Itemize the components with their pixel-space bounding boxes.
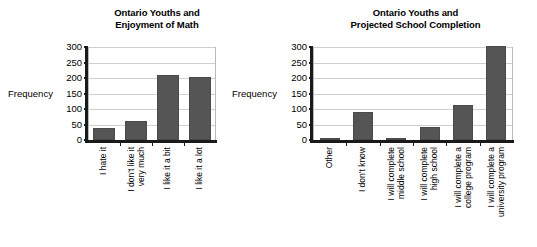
x-axis-label-line: I like it a lot: [195, 147, 205, 190]
x-axis-label-line: very much: [136, 147, 146, 192]
y-axis-tick-label: 200: [273, 73, 307, 83]
y-axis-tick-label: 0: [48, 135, 82, 145]
y-axis-tick-label: 250: [48, 58, 82, 68]
y-axis-tick-mark: [309, 139, 313, 141]
bar: [189, 77, 210, 140]
y-axis-tick-mark: [309, 124, 313, 126]
bars-container: [313, 47, 513, 140]
y-axis-tick-label: 300: [273, 42, 307, 52]
chart-enjoyment-of-math: Ontario Youths and Enjoyment of Math 050…: [0, 0, 268, 247]
x-axis-category-label: I don't like itvery much: [127, 147, 146, 192]
y-axis-tick-label: 150: [48, 89, 82, 99]
bar: [453, 105, 473, 140]
x-axis-category-label: I like it a lot: [195, 147, 205, 190]
x-axis-tick-mark: [346, 141, 347, 146]
x-axis-label-line: college program: [463, 147, 473, 208]
x-axis-tick-mark: [120, 141, 121, 146]
x-axis-label-line: I don't know: [358, 147, 368, 192]
bar: [320, 138, 340, 140]
bar: [157, 75, 178, 140]
bar: [125, 121, 146, 140]
x-axis-tick-mark: [184, 141, 185, 146]
y-axis-tick-label: 100: [48, 104, 82, 114]
y-axis-tick-label: 100: [273, 104, 307, 114]
x-axis-label-line: Other: [325, 147, 335, 168]
chart-title-line-2: Projected School Completion: [304, 19, 527, 31]
chart-title: Ontario Youths and Projected School Comp…: [304, 7, 527, 31]
x-axis-label-line: I will complete: [387, 147, 397, 200]
chart-projected-school-completion: Ontario Youths and Projected School Comp…: [268, 0, 537, 247]
x-axis-tick-mark: [152, 141, 153, 146]
chart-title: Ontario Youths and Enjoyment of Math: [54, 7, 260, 31]
chart-title-line-1: Ontario Youths and: [304, 7, 527, 19]
y-axis-tick-mark: [309, 108, 313, 110]
x-axis-label-line: I hate it: [99, 147, 109, 175]
x-axis-label-line: I don't like it: [127, 147, 137, 192]
y-axis-tick-label: 250: [273, 58, 307, 68]
bar: [386, 138, 406, 140]
y-axis-tick-label: 200: [48, 73, 82, 83]
y-axis-label: Frequency: [232, 88, 277, 99]
x-axis-category-label: I hate it: [99, 147, 109, 175]
y-axis-tick-mark: [84, 77, 88, 79]
bar: [420, 127, 440, 140]
y-axis-tick-mark: [84, 93, 88, 95]
y-axis-tick-label: 50: [273, 120, 307, 130]
x-axis-tick-mark: [413, 141, 414, 146]
x-axis-label-line: high school: [430, 147, 440, 200]
y-axis-label: Frequency: [8, 88, 53, 99]
x-axis-label-line: university program: [496, 147, 506, 217]
bar: [353, 112, 373, 140]
x-axis-category-label: I will completemiddle school: [387, 147, 406, 200]
x-axis-category-label: I will complete acollege program: [454, 147, 473, 208]
y-axis-tick-mark: [84, 108, 88, 110]
y-axis-tick-mark: [309, 62, 313, 64]
y-axis-tick-mark: [309, 77, 313, 79]
y-axis-tick-label: 300: [48, 42, 82, 52]
y-axis-tick-mark: [84, 62, 88, 64]
bar: [93, 128, 114, 140]
y-axis-tick-label: 150: [273, 89, 307, 99]
chart-page: Ontario Youths and Enjoyment of Math 050…: [0, 0, 537, 247]
x-axis-tick-mark: [380, 141, 381, 146]
x-axis-label-line: I will complete a: [454, 147, 464, 208]
x-axis-category-label: I will completehigh school: [420, 147, 439, 200]
x-axis-label-line: I will complete a: [487, 147, 497, 217]
bars-container: [88, 47, 216, 140]
bar: [486, 46, 506, 140]
x-axis-category-label: I will complete auniversity program: [487, 147, 506, 217]
y-axis-tick-label: 50: [48, 120, 82, 130]
chart-title-line-1: Ontario Youths and: [54, 7, 260, 19]
x-axis-label-line: I like it a bit: [163, 147, 173, 190]
x-axis-tick-mark: [480, 141, 481, 146]
x-axis-category-label: I like it a bit: [163, 147, 173, 190]
y-axis-tick-mark: [84, 46, 88, 48]
x-axis-tick-mark: [446, 141, 447, 146]
y-axis-tick-mark: [84, 139, 88, 141]
y-axis-tick-mark: [84, 124, 88, 126]
x-axis-category-label: I don't know: [358, 147, 368, 192]
y-axis-tick-mark: [309, 46, 313, 48]
chart-title-line-2: Enjoyment of Math: [54, 19, 260, 31]
x-axis-category-label: Other: [325, 147, 335, 168]
y-axis-tick-mark: [309, 93, 313, 95]
y-axis-tick-label: 0: [273, 135, 307, 145]
x-axis-label-line: middle school: [396, 147, 406, 200]
